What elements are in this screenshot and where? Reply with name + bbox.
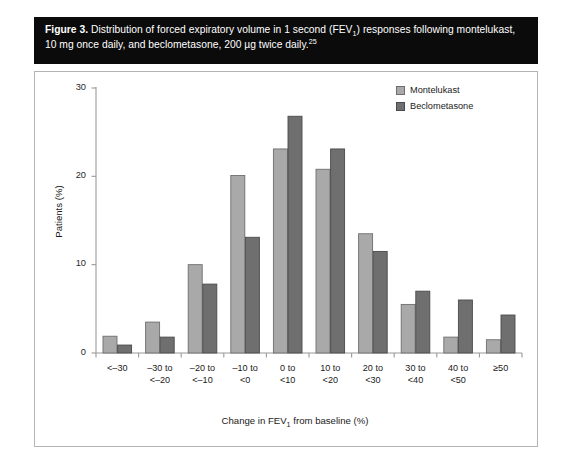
legend-label-beclometasone: Beclometasone: [410, 101, 473, 111]
legend-swatch-beclometasone: [396, 102, 405, 111]
legend-item-montelukast: Montelukast: [396, 83, 473, 97]
bar-chart: [0, 0, 570, 469]
figure-container: Figure 3. Distribution of forced expirat…: [0, 0, 570, 469]
bar-montelukast-9[interactable]: [486, 340, 500, 353]
bar-montelukast-8[interactable]: [444, 337, 458, 353]
bar-montelukast-0[interactable]: [103, 336, 117, 353]
bar-montelukast-5[interactable]: [316, 169, 330, 353]
bar-beclometasone-7[interactable]: [416, 291, 430, 353]
chart-legend: Montelukast Beclometasone: [396, 83, 473, 115]
bar-montelukast-6[interactable]: [359, 234, 373, 353]
bar-beclometasone-1[interactable]: [160, 337, 174, 353]
legend-label-montelukast: Montelukast: [410, 85, 460, 95]
bar-beclometasone-3[interactable]: [245, 237, 259, 353]
axis-lines: [92, 87, 523, 358]
bars-group: [103, 116, 515, 353]
bar-beclometasone-9[interactable]: [501, 315, 515, 353]
bar-beclometasone-0[interactable]: [118, 345, 132, 353]
bar-beclometasone-6[interactable]: [373, 251, 387, 353]
bar-montelukast-1[interactable]: [146, 322, 160, 353]
bar-montelukast-2[interactable]: [188, 265, 202, 353]
bar-montelukast-4[interactable]: [273, 149, 287, 353]
bar-beclometasone-2[interactable]: [203, 284, 217, 353]
bar-beclometasone-5[interactable]: [331, 149, 345, 353]
bar-montelukast-3[interactable]: [231, 175, 245, 353]
bar-beclometasone-8[interactable]: [458, 300, 472, 353]
legend-swatch-montelukast: [396, 86, 405, 95]
bar-montelukast-7[interactable]: [401, 304, 415, 353]
legend-item-beclometasone: Beclometasone: [396, 99, 473, 113]
bar-beclometasone-4[interactable]: [288, 116, 302, 353]
